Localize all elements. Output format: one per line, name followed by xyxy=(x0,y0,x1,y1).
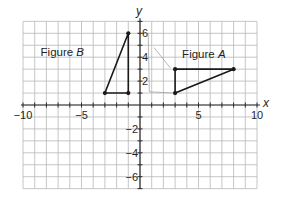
y-axis-label: y xyxy=(135,4,143,18)
y-tick-label: 6 xyxy=(142,27,148,39)
axes xyxy=(21,18,260,188)
coordinate-plane: −10−5510642−2−4−6 Figure AFigure B x y xyxy=(0,0,283,203)
pencil-trace-line xyxy=(154,48,170,68)
y-tick-label: 4 xyxy=(142,51,148,63)
figure-a-label: Figure A xyxy=(182,48,226,60)
x-tick-label: 5 xyxy=(195,109,201,121)
faint-pencil-trace xyxy=(148,33,175,93)
vertex-point xyxy=(173,67,177,71)
vertex-point xyxy=(173,91,177,95)
y-tick-label: −6 xyxy=(125,171,138,183)
vertex-point xyxy=(126,91,130,95)
y-tick-label: −2 xyxy=(125,123,138,135)
x-tick-label: 10 xyxy=(251,109,263,121)
x-tick-label: −5 xyxy=(75,109,88,121)
vertex-point xyxy=(126,31,130,35)
y-tick-label: −4 xyxy=(125,147,138,159)
vertex-point xyxy=(103,91,107,95)
figure-b-label: Figure B xyxy=(41,46,85,58)
vertex-point xyxy=(232,67,236,71)
x-tick-label: −10 xyxy=(14,109,33,121)
x-axis-label: x xyxy=(262,96,270,110)
pencil-trace-line xyxy=(148,33,175,93)
y-tick-label: 2 xyxy=(142,75,148,87)
